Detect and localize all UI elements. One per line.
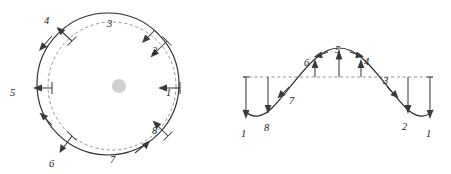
right-point-label-6: 6: [304, 57, 310, 68]
left-panel-circular-wavefront: 1 2 3 4 5 6 7 8: [10, 13, 180, 169]
displacement-arrow-2-right-panel: [405, 77, 412, 114]
right-point-label-8: 8: [264, 122, 270, 133]
displacement-arrow-1-left-right-panel: [243, 77, 250, 119]
left-point-label-7: 7: [110, 154, 116, 165]
right-panel-sine-wave: 1 8 7 6 5 4 3 2 1: [241, 44, 433, 139]
displaced-wavefront-circle: [37, 13, 179, 155]
left-point-label-6: 6: [49, 158, 55, 169]
left-point-label-1: 1: [166, 87, 171, 98]
left-point-label-4: 4: [44, 15, 50, 26]
displacement-arrow-8b-right-panel: [278, 87, 290, 99]
figure-root: 1 2 3 4 5 6 7 8: [0, 0, 451, 174]
right-point-label-4: 4: [364, 56, 370, 67]
right-point-label-1-right: 1: [426, 128, 431, 139]
displacement-arrow-2b-left-panel: [142, 30, 155, 43]
right-point-label-2: 2: [402, 121, 408, 132]
right-point-label-5: 5: [335, 44, 340, 55]
left-point-label-3: 3: [106, 18, 112, 29]
left-point-label-5: 5: [10, 87, 15, 98]
left-point-label-8: 8: [152, 125, 158, 136]
right-point-label-3: 3: [382, 75, 388, 86]
left-point-label-2: 2: [152, 45, 158, 56]
right-point-label-1-left: 1: [241, 128, 246, 139]
displacement-arrow-8-right-panel: [265, 77, 272, 114]
displacement-arrow-4-left-panel: [57, 27, 77, 46]
displacement-arrow-5-left-panel: [33, 82, 52, 94]
right-point-label-7: 7: [289, 95, 295, 106]
displacement-arrow-1-right-right-panel: [427, 77, 434, 119]
wave-displacement-figure: 1 2 3 4 5 6 7 8: [0, 0, 451, 174]
displacement-arrow-2b-right-panel: [387, 87, 399, 99]
wave-source-dot: [112, 79, 126, 93]
displacement-arrow-6b-left-panel: [40, 113, 53, 126]
